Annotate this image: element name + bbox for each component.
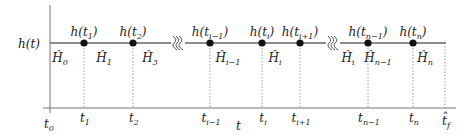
point-label: h(t2) (119, 25, 146, 41)
interval-estimate-label: Ĥi (267, 50, 281, 67)
interval-estimate-label: Ĥn (416, 50, 433, 67)
point-label: h(ti+1) (282, 25, 319, 41)
interval-estimate-label: Ĥi−1 (215, 50, 241, 67)
interval-estimate-label: Ĥi (340, 50, 354, 67)
y-axis-label: h(t) (18, 37, 40, 51)
final-time-label: t̂f (442, 111, 452, 130)
piecewise-constant-timeline-diagram: h(t) t0 t h(t1)t1h(t2)t2h(ti−1)ti−1h(ti)… (0, 0, 470, 138)
x-axis-label: t (236, 119, 241, 133)
point-label: h(tn−1) (349, 25, 388, 41)
time-tick-label: ti−1 (201, 111, 220, 127)
interval-estimate-label: Ĥ1 (95, 50, 112, 67)
sample-point (80, 39, 87, 46)
point-label: h(ti) (250, 25, 275, 41)
sample-point (258, 39, 265, 46)
point-label: h(tn) (399, 25, 426, 41)
time-tick-label: t2 (129, 111, 139, 127)
point-label: h(ti−1) (192, 25, 229, 41)
interval-estimate-label: Ĥ3 (141, 50, 158, 67)
time-tick-label: tn−1 (358, 111, 380, 127)
sample-point (409, 39, 416, 46)
time-tick-label: ti (259, 111, 267, 127)
sample-point (129, 39, 136, 46)
time-tick-label: tn (409, 111, 419, 127)
time-tick-label: t1 (80, 111, 90, 127)
interval-estimate-label: Ĥn−1 (363, 50, 391, 67)
origin-label: t0 (44, 117, 54, 133)
diagram-elements: h(t1)t1h(t2)t2h(ti−1)ti−1h(ti)tih(ti+1)t… (51, 25, 452, 130)
time-tick-label: ti+1 (291, 111, 310, 127)
interval-estimate-label: Ĥ0 (51, 50, 68, 67)
point-label: h(t1) (70, 25, 97, 41)
